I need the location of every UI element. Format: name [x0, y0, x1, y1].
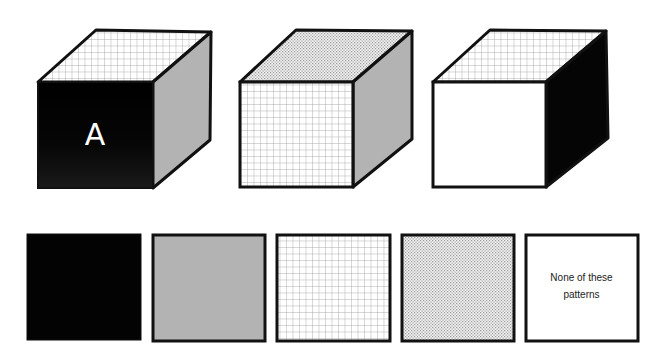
cube-1-front-label: A — [85, 117, 106, 152]
option-dotted[interactable] — [402, 235, 514, 341]
option-black[interactable] — [27, 234, 141, 340]
cube-pattern-puzzle: A None of these patterns — [0, 0, 670, 355]
cube-3 — [433, 30, 608, 187]
cube-2-front-face-grid — [240, 82, 353, 187]
answer-options — [27, 234, 638, 341]
option-grid[interactable] — [277, 235, 390, 341]
option-gray[interactable] — [153, 235, 265, 341]
option-none[interactable] — [526, 235, 638, 341]
cube-2 — [240, 30, 412, 187]
puzzle-canvas: A — [0, 0, 670, 355]
cube-3-front-face-white — [433, 82, 546, 187]
cube-1: A — [38, 30, 211, 188]
